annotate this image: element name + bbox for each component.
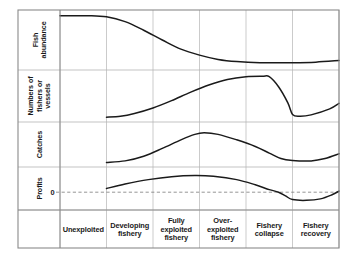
x-axis-label-line: Unexploited bbox=[63, 225, 105, 234]
fishery-stages-figure: FishabundanceNumbers offishers orvessels… bbox=[0, 0, 348, 258]
y-axis-label-line: vessels bbox=[43, 83, 52, 108]
x-axis-label-fishery-collapse: Fisherycollapse bbox=[255, 221, 284, 239]
x-axis-label-line: recovery bbox=[301, 229, 332, 238]
x-axis-label-fishery-recovery: Fisheryrecovery bbox=[301, 221, 332, 239]
zero-tick-label: 0 bbox=[50, 188, 54, 197]
y-axis-label-line: abundance bbox=[39, 21, 48, 58]
x-axis-label-line: fishery bbox=[211, 233, 236, 242]
y-axis-label-profits: Profits bbox=[35, 177, 44, 199]
x-axis-label-line: fishery bbox=[118, 229, 143, 238]
chart-canvas: FishabundanceNumbers offishers orvessels… bbox=[0, 0, 348, 258]
x-axis-label-line: collapse bbox=[255, 229, 284, 238]
y-axis-label-line: Profits bbox=[35, 177, 44, 199]
y-axis-label-catches: Catches bbox=[35, 131, 44, 158]
x-axis-label-line: fishery bbox=[164, 233, 189, 242]
y-axis-label-line: Catches bbox=[35, 131, 44, 158]
x-axis-label-unexploited: Unexploited bbox=[63, 225, 105, 234]
